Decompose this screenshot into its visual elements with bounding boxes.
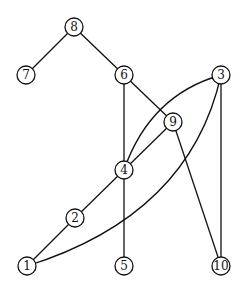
node-label: 7 bbox=[22, 68, 30, 82]
node-label: 6 bbox=[120, 68, 128, 82]
node-label: 5 bbox=[120, 259, 128, 273]
edge-2-1 bbox=[27, 218, 75, 266]
graph-svg: 12345678910 bbox=[0, 0, 248, 296]
node-5: 5 bbox=[115, 257, 133, 275]
node-8: 8 bbox=[65, 18, 83, 36]
node-label: 2 bbox=[71, 211, 79, 225]
node-3: 3 bbox=[212, 66, 230, 84]
node-4: 4 bbox=[115, 161, 133, 179]
node-7: 7 bbox=[17, 66, 35, 84]
node-label: 10 bbox=[213, 259, 228, 273]
edge-6-9 bbox=[124, 75, 173, 122]
edge-4-2 bbox=[75, 170, 124, 218]
edge-9-10 bbox=[173, 122, 221, 266]
edge-8-6 bbox=[74, 27, 124, 75]
node-label: 8 bbox=[70, 20, 78, 34]
node-1: 1 bbox=[18, 257, 36, 275]
edges-layer bbox=[26, 27, 221, 266]
node-label: 3 bbox=[217, 68, 225, 82]
node-2: 2 bbox=[66, 209, 84, 227]
graph-diagram: 12345678910 bbox=[0, 0, 248, 296]
edge-9-4 bbox=[124, 122, 173, 170]
node-label: 1 bbox=[23, 259, 31, 273]
node-9: 9 bbox=[164, 113, 182, 131]
node-label: 9 bbox=[169, 115, 177, 129]
node-label: 4 bbox=[120, 163, 128, 177]
edge-8-7 bbox=[26, 27, 74, 75]
node-6: 6 bbox=[115, 66, 133, 84]
node-10: 10 bbox=[212, 257, 230, 275]
